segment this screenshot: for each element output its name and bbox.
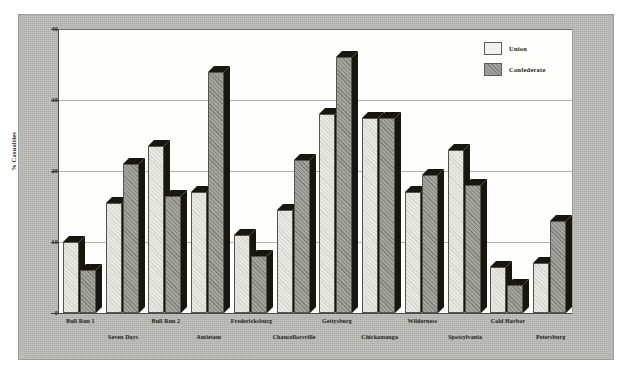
bar-union [448,150,464,313]
legend-item-confederate: Confederate [484,63,546,76]
bar-union [234,235,250,313]
bar-extrusion-side [523,279,529,313]
y-tick-mark [51,171,58,172]
bar-union [148,146,164,313]
legend-item-union: Union [484,42,546,55]
legend-label-confederate: Confederate [509,66,546,73]
bar-extrusion-side [395,112,401,313]
bar-union [362,118,378,313]
bar-group-item [277,210,293,313]
legend-swatch-union [484,42,502,55]
y-axis-ticks: 010203040 [22,29,58,314]
bar-extrusion-side [352,51,358,313]
bar-group-item [490,267,506,313]
bar-extrusion-side [139,158,145,313]
x-tick-label: Cold Harbor [491,318,525,324]
bar-group-item [319,114,335,313]
bar-group-item [80,270,96,313]
bar-group-item [465,185,481,313]
bar-confederate [379,118,395,313]
bar-extrusion-side [310,154,316,313]
bar-group-item [234,235,250,313]
bar-confederate [80,270,96,313]
bar-confederate [294,160,310,313]
legend-label-union: Union [509,45,527,52]
bar-group-item [550,221,566,313]
x-tick-label: Bull Run 1 [66,318,95,324]
bar-group-item [63,242,79,313]
bar-group-item [251,256,267,313]
legend-swatch-confederate [484,63,502,76]
bar-group-item [405,192,421,313]
x-tick-label: Fredericksburg [231,318,272,324]
bar-confederate [165,196,181,313]
bar-group-item [106,203,122,313]
bar-group-item [379,118,395,313]
bar-group-item [533,263,549,313]
bar-union [533,263,549,313]
y-tick-mark [51,29,58,30]
bar-extrusion-side [481,179,487,313]
bar-confederate [208,72,224,313]
chart-legend: Union Confederate [484,42,546,84]
bar-extrusion-side [181,190,187,313]
bar-confederate [251,256,267,313]
bar-group-item [336,57,352,313]
x-tick-label: Gettysburg [322,318,352,324]
y-axis-label: % Casualties [10,102,17,202]
x-tick-label: Wilderness [408,318,438,324]
bar-group-item [294,160,310,313]
bar-extrusion-side [267,250,273,313]
bar-group-item [208,72,224,313]
bar-group-item [448,150,464,313]
bar-extrusion-side [438,169,444,313]
x-tick-label: Bull Run 2 [152,318,181,324]
bar-group-item [165,196,181,313]
bar-union [319,114,335,313]
bar-confederate [336,57,352,313]
x-tick-label: Petersburg [536,334,565,340]
bar-union [490,267,506,313]
y-tick-mark [51,313,58,314]
bar-confederate [550,221,566,313]
bar-union [405,192,421,313]
bar-group-item [507,285,523,313]
x-tick-label: Chancellorsville [273,334,316,340]
x-tick-label: Antietam [196,334,221,340]
bar-union [63,242,79,313]
plot-right-border [572,29,573,314]
bar-confederate [465,185,481,313]
bar-confederate [507,285,523,313]
x-tick-label: Seven Days [108,334,138,340]
bar-confederate [422,175,438,313]
bar-group-item [148,146,164,313]
x-tick-label: Spotsylvania [448,334,482,340]
bar-union [106,203,122,313]
y-tick-mark [51,100,58,101]
bar-group-item [422,175,438,313]
bar-group-item [362,118,378,313]
bar-group-item [123,164,139,313]
x-tick-label: Chickamauga [361,334,398,340]
bar-confederate [123,164,139,313]
bar-extrusion-side [96,264,102,313]
bar-union [191,192,207,313]
bar-extrusion-side [566,215,572,313]
bar-extrusion-side [224,66,230,313]
chart-figure: 010203040 % Casualties Bull Run 1Seven D… [0,0,632,376]
x-axis-labels: Bull Run 1Seven DaysBull Run 2AntietamFr… [59,316,572,362]
y-tick-mark [51,242,58,243]
bar-union [277,210,293,313]
bar-group-item [191,192,207,313]
